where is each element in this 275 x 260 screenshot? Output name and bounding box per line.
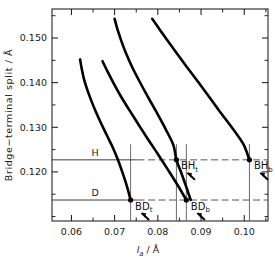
x-axis-tick-labels: 0.060.070.080.090.10	[61, 226, 255, 237]
figure-chart: 0.060.070.080.090.10 0.1200.1300.1400.15…	[0, 0, 275, 260]
x-tick-label: 0.06	[61, 226, 82, 237]
marker-BDt	[128, 197, 133, 202]
x-tick-label: 0.10	[234, 226, 255, 237]
annotation-labels: BHtBHbBDtBDb	[135, 160, 273, 214]
y-tick-label: 0.130	[20, 122, 47, 133]
reference-lines	[52, 160, 268, 200]
marker-BHt	[174, 157, 179, 162]
reference-line-label: D	[92, 187, 99, 198]
curve-curve-1	[80, 59, 131, 200]
x-tick-label: 0.08	[147, 226, 168, 237]
data-curves	[80, 19, 249, 200]
svg-text:Bridge−terminal split / Å: Bridge−terminal split / Å	[3, 49, 14, 181]
curve-curve-2	[103, 61, 187, 200]
plot-frame	[52, 9, 268, 221]
x-tick-label: 0.07	[104, 226, 125, 237]
y-tick-label: 0.150	[20, 32, 47, 43]
y-tick-label: 0.140	[20, 77, 47, 88]
reference-line-labels: HD	[92, 147, 99, 198]
x-tick-label: 0.09	[190, 226, 211, 237]
svg-text:la / Å: la / Å	[137, 244, 160, 258]
chart-canvas: 0.060.070.080.090.10 0.1200.1300.1400.15…	[0, 0, 275, 260]
curve-curve-4	[152, 19, 249, 160]
label-BHt: BHt	[181, 160, 198, 174]
y-tick-label: 0.120	[20, 166, 47, 177]
plot-border	[52, 9, 268, 221]
marker-BHb	[247, 157, 252, 162]
label-BDb: BDb	[191, 201, 211, 215]
y-axis-major-ticks	[52, 38, 268, 172]
curve-curve-3	[115, 19, 191, 200]
x-axis-title: la / Å	[137, 244, 160, 258]
label-BDt: BDt	[135, 201, 153, 215]
y-axis-title: Bridge−terminal split / Å	[3, 49, 14, 181]
reference-line-label: H	[92, 147, 99, 158]
y-axis-tick-labels: 0.1200.1300.1400.150	[20, 32, 47, 177]
marker-BDb	[184, 197, 189, 202]
